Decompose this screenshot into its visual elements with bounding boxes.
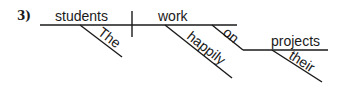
object-modifier-word: their — [286, 47, 318, 75]
article-modifier-word: The — [95, 24, 124, 51]
verb-word: work — [157, 8, 189, 24]
sentence-diagram: 3) students The work happily on projects… — [0, 0, 343, 89]
problem-number: 3) — [17, 9, 31, 23]
subject-word: students — [55, 8, 108, 24]
preposition-word: on — [220, 24, 242, 46]
